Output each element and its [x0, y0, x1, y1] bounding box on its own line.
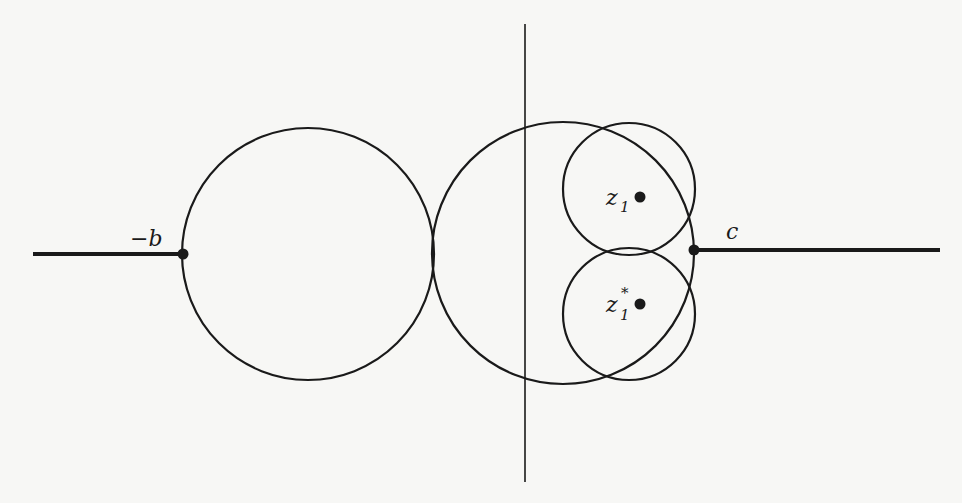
label-c: c	[726, 219, 738, 244]
diagram-canvas: −b c z 1 z 1 *	[0, 0, 962, 503]
point-z1	[635, 192, 646, 203]
point-z1-star	[635, 299, 646, 310]
point-neg-b	[178, 249, 189, 260]
left-circle	[182, 128, 434, 380]
label-z1: z	[605, 185, 618, 210]
label-z1-star: z	[605, 292, 618, 317]
label-neg-b: −b	[130, 226, 163, 251]
point-c	[689, 245, 700, 256]
label-z1-star-subscript: 1	[620, 306, 630, 324]
label-z1-subscript: 1	[620, 198, 630, 216]
upper-small-circle	[563, 123, 695, 255]
label-z1-star-superscript: *	[621, 284, 629, 302]
